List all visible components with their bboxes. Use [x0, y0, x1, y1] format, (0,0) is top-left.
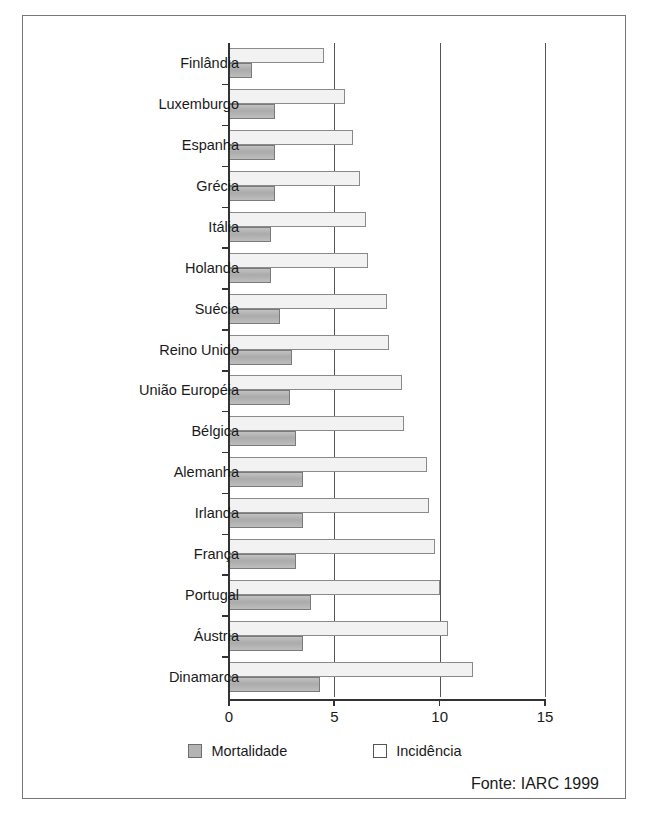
category-label: Portugal [185, 588, 239, 603]
bar-group [229, 207, 545, 248]
category-label: Bélgica [191, 424, 239, 439]
x-axis-tick-label: 0 [225, 709, 233, 724]
x-axis-tick [333, 699, 335, 706]
category-label: Itália [208, 220, 239, 235]
bar-incidencia[interactable] [229, 416, 404, 431]
y-axis-tick [222, 452, 229, 454]
y-axis-tick [222, 656, 229, 658]
bar-group [229, 84, 545, 125]
bar-group [229, 43, 545, 84]
y-axis-tick [222, 534, 229, 536]
bar-incidencia[interactable] [229, 580, 440, 595]
bar-mortalidade[interactable] [229, 554, 296, 569]
bar-incidencia[interactable] [229, 457, 427, 472]
category-label: União Européia [139, 383, 239, 398]
category-label: Holanda [185, 261, 239, 276]
bar-mortalidade[interactable] [229, 636, 303, 651]
bar-incidencia[interactable] [229, 253, 368, 268]
bar-incidencia[interactable] [229, 130, 353, 145]
chart-legend: Mortalidade Incidência [23, 744, 627, 759]
bar-incidencia[interactable] [229, 48, 324, 63]
category-label: Irlanda [195, 506, 239, 521]
category-label: Grécia [196, 179, 239, 194]
category-label: Suécia [195, 302, 239, 317]
bar-group [229, 125, 545, 166]
x-axis-tick [439, 699, 441, 706]
y-axis-tick [222, 125, 229, 127]
category-label: Alemanha [174, 465, 239, 480]
bar-incidencia[interactable] [229, 621, 448, 636]
bar-group [229, 534, 545, 575]
bar-group [229, 166, 545, 207]
bar-group [229, 656, 545, 697]
bar-incidencia[interactable] [229, 89, 345, 104]
bar-incidencia[interactable] [229, 171, 360, 186]
bar-group [229, 370, 545, 411]
bar-incidencia[interactable] [229, 498, 429, 513]
bar-group [229, 452, 545, 493]
y-axis-tick [222, 329, 229, 331]
bar-group [229, 288, 545, 329]
category-label: Dinamarca [169, 670, 239, 685]
category-label: França [194, 547, 239, 562]
category-label: Espanha [182, 138, 239, 153]
bar-group [229, 615, 545, 656]
bar-mortalidade[interactable] [229, 472, 303, 487]
y-axis-tick [222, 493, 229, 495]
y-axis-tick [222, 615, 229, 617]
bar-mortalidade[interactable] [229, 513, 303, 528]
x-axis-tick-label: 5 [330, 709, 338, 724]
category-label: Luxemburgo [158, 97, 239, 112]
bar-incidencia[interactable] [229, 335, 389, 350]
bar-incidencia[interactable] [229, 375, 402, 390]
y-axis-tick [222, 84, 229, 86]
source-note: Fonte: IARC 1999 [471, 776, 599, 792]
category-label: Áustria [194, 629, 239, 644]
mortality-swatch-icon [188, 744, 202, 758]
bar-incidencia[interactable] [229, 662, 473, 677]
x-axis-line [228, 699, 546, 701]
y-axis-tick [222, 166, 229, 168]
category-label: Finlândia [180, 56, 239, 71]
chart-figure-frame: Mortalidade Incidência Fonte: IARC 1999 … [22, 15, 626, 799]
x-axis-tick-label: 10 [431, 709, 448, 724]
bar-incidencia[interactable] [229, 294, 387, 309]
x-axis-tick [544, 699, 546, 706]
legend-item-mortalidade[interactable]: Mortalidade [188, 744, 287, 759]
x-axis-tick [228, 699, 230, 706]
y-axis-tick [222, 411, 229, 413]
gridline-15 [545, 43, 546, 697]
bar-group [229, 247, 545, 288]
bar-incidencia[interactable] [229, 212, 366, 227]
y-axis-tick [222, 574, 229, 576]
bar-mortalidade[interactable] [229, 595, 311, 610]
y-axis-tick [222, 288, 229, 290]
bar-mortalidade[interactable] [229, 431, 296, 446]
x-axis-tick-label: 15 [537, 709, 554, 724]
bar-mortalidade[interactable] [229, 677, 320, 692]
legend-item-incidencia[interactable]: Incidência [373, 744, 461, 759]
bar-group [229, 411, 545, 452]
bar-group [229, 329, 545, 370]
bar-incidencia[interactable] [229, 539, 435, 554]
category-label: Reino Unido [159, 343, 239, 358]
legend-label-incidencia: Incidência [396, 744, 461, 759]
bar-group [229, 574, 545, 615]
y-axis-tick [222, 207, 229, 209]
y-axis-tick [222, 247, 229, 249]
plot-area [229, 43, 545, 697]
bar-group [229, 493, 545, 534]
legend-label-mortalidade: Mortalidade [211, 744, 287, 759]
incidence-swatch-icon [373, 744, 387, 758]
y-axis-tick [222, 370, 229, 372]
